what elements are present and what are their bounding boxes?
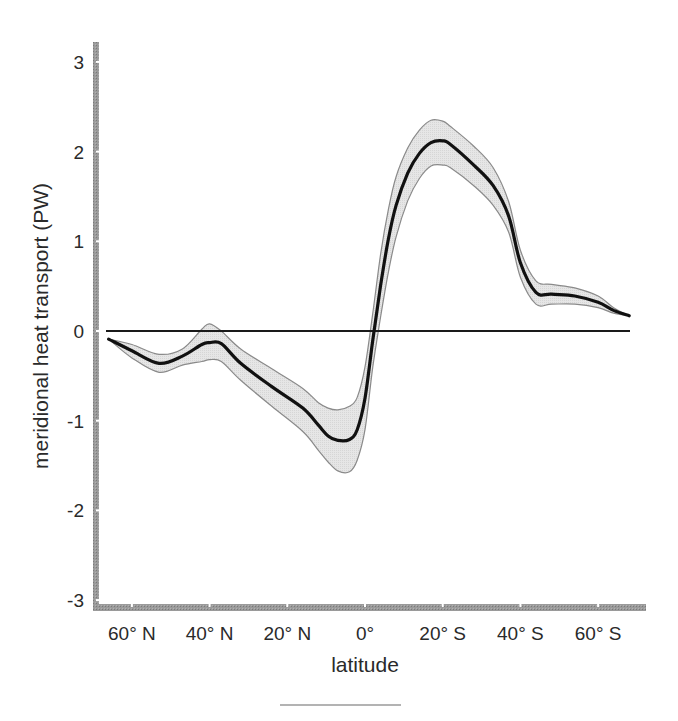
x-tick-label: 60° S xyxy=(575,623,622,644)
x-tick-label: 40° S xyxy=(497,623,544,644)
x-tick xyxy=(286,603,288,607)
y-tick-label: -1 xyxy=(67,411,84,432)
y-tick xyxy=(96,420,100,422)
heat-transport-chart: 3210-1-2-3 60° N40° N20° N0°20° S40° S60… xyxy=(0,0,678,721)
y-tick xyxy=(96,599,100,601)
y-tick-label: 1 xyxy=(73,231,84,252)
y-tick-label: -2 xyxy=(67,500,84,521)
y-tick xyxy=(96,240,100,242)
x-tick xyxy=(209,603,211,607)
x-tick-label: 60° N xyxy=(108,623,156,644)
y-tick xyxy=(96,151,100,153)
x-axis-title: latitude xyxy=(331,653,399,676)
y-tick-label: -3 xyxy=(67,590,84,611)
x-axis-bar xyxy=(93,604,646,611)
y-tick-label: 2 xyxy=(73,142,84,163)
x-tick-labels: 60° N40° N20° N0°20° S40° S60° S xyxy=(108,623,621,644)
x-tick-label: 20° N xyxy=(263,623,311,644)
y-axis-bar xyxy=(93,42,99,611)
x-tick xyxy=(364,603,366,607)
y-tick-labels: 3210-1-2-3 xyxy=(67,52,84,611)
x-tick-label: 20° S xyxy=(419,623,466,644)
y-tick xyxy=(96,330,100,332)
y-tick xyxy=(96,509,100,511)
uncertainty-band xyxy=(109,120,630,473)
x-tick xyxy=(519,603,521,607)
x-tick xyxy=(597,603,599,607)
y-tick-label: 3 xyxy=(73,52,84,73)
y-tick-label: 0 xyxy=(73,321,84,342)
x-tick xyxy=(442,603,444,607)
y-axis: 3210-1-2-3 xyxy=(67,42,100,611)
y-tick xyxy=(96,61,100,63)
uncertainty-band-area xyxy=(109,120,630,473)
x-axis: 60° N40° N20° N0°20° S40° S60° S xyxy=(93,603,646,644)
x-tick-label: 0° xyxy=(356,623,374,644)
x-tick-label: 40° N xyxy=(186,623,234,644)
x-tick xyxy=(131,603,133,607)
y-axis-title: meridional heat transport (PW) xyxy=(29,183,52,469)
